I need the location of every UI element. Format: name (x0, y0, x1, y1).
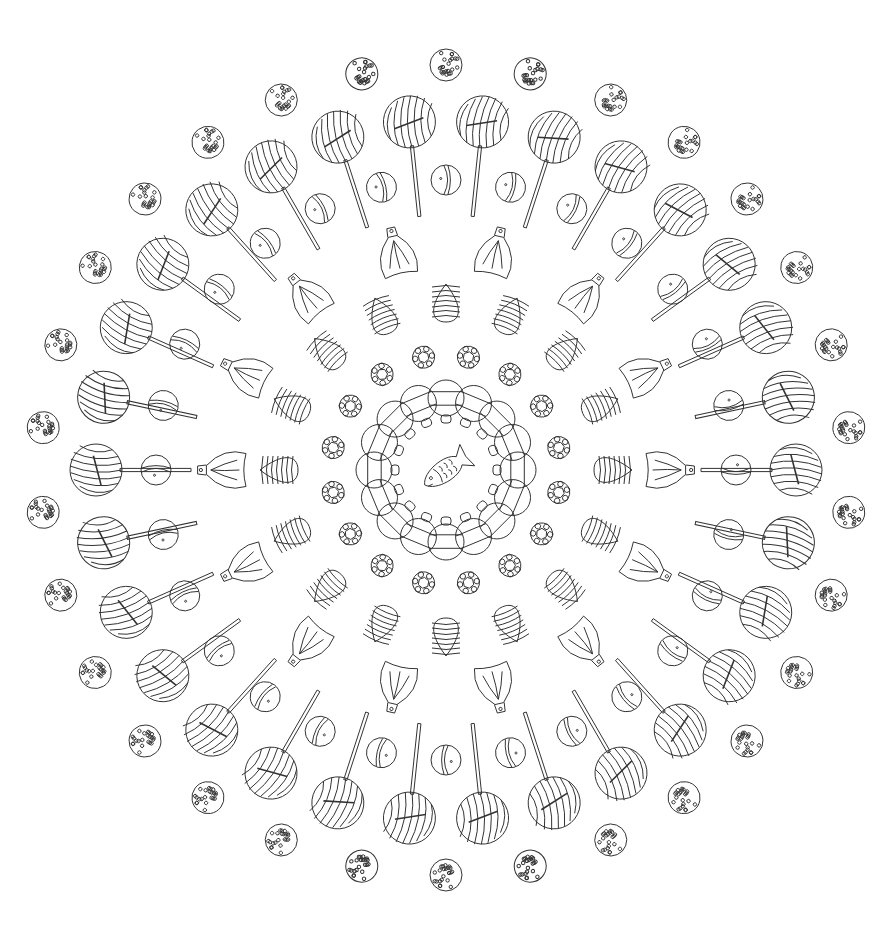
small-ball-item (606, 676, 648, 718)
sprinkle-ball-item (41, 575, 81, 615)
small-ball-item (493, 735, 529, 771)
striped-egg-item (541, 329, 588, 376)
sprinkle-ball-item (122, 718, 167, 763)
lollipop-item (668, 550, 800, 647)
striped-egg-item (362, 293, 402, 339)
sprinkle-ball-item (662, 775, 707, 820)
lollipop-item (637, 228, 765, 341)
lollipop-item (305, 104, 392, 235)
wrapped-candie-item (473, 661, 519, 716)
small-ball-item (364, 735, 400, 771)
small-ball-item (244, 222, 286, 264)
wrapped-candie-item (556, 264, 615, 325)
sprinkle-ball-item (260, 79, 302, 121)
wrapped-candie-item (373, 661, 419, 716)
lollipop-item (381, 93, 445, 219)
lollipop-item (127, 228, 255, 341)
sprinkle-ball-item (343, 847, 381, 885)
striped-egg-item (269, 514, 315, 554)
flower-gem-item (410, 570, 437, 596)
flower-gem-item (526, 391, 557, 422)
striped-bell-candie-item (483, 419, 537, 469)
lollipop-item (500, 104, 587, 235)
small-ball-item (431, 745, 461, 775)
sprinkle-ball-item (831, 495, 866, 530)
small-ball-item (552, 711, 592, 751)
striped-egg-item (260, 456, 298, 484)
striped-bell-candie-item (493, 452, 536, 488)
lollipop-item (305, 704, 392, 835)
sprinkle-ball-item (430, 859, 462, 891)
striped-egg-item (577, 514, 623, 554)
sprinkle-ball-item (811, 575, 851, 615)
sprinkle-ball-item (811, 325, 851, 365)
striped-egg-item (362, 601, 402, 647)
wrapped-candie-item (618, 346, 677, 400)
fish-candy-icon (417, 444, 475, 495)
sprinkle-ball-item (26, 410, 61, 445)
flower-gem-item (335, 391, 366, 422)
striped-bell-candie-item (356, 452, 399, 488)
sprinkle-ball-item (430, 49, 462, 81)
wrapped-candie-item (214, 540, 273, 594)
sprinkle-ball-item (511, 847, 549, 885)
sprinkle-ball-item (73, 246, 117, 290)
striped-egg-item (432, 284, 460, 322)
candy-mandala (0, 0, 892, 941)
sprinkle-ball-item (590, 819, 632, 861)
wrapped-candie-item (198, 452, 246, 488)
lollipop-item (70, 444, 191, 496)
lollipop-item (447, 93, 511, 219)
wrapped-candie-item (646, 452, 694, 488)
sprinkle-ball-item (511, 55, 549, 93)
sprinkle-ball-item (122, 176, 167, 221)
sprinkle-ball-item (724, 176, 769, 221)
lollipop-item (235, 678, 341, 809)
sprinkle-ball-item (775, 651, 819, 695)
lollipop-item (73, 366, 202, 442)
flower-gem-item (320, 434, 346, 461)
small-ball-item (141, 455, 171, 485)
small-ball-item (198, 630, 240, 672)
striped-bell-candie-item (447, 507, 497, 561)
striped-egg-item (269, 386, 315, 426)
wrapped-candie-item (277, 264, 336, 325)
striped-bell-candie-item (483, 471, 537, 521)
striped-egg-item (577, 386, 623, 426)
striped-egg-item (541, 565, 588, 612)
small-ball-item (300, 711, 340, 751)
small-ball-item (364, 169, 400, 205)
wrapped-candie-item (473, 224, 519, 279)
striped-egg-item (432, 618, 460, 656)
wrapped-candie-item (618, 540, 677, 594)
lollipop-item (551, 131, 657, 262)
striped-bell-candie-item (447, 380, 497, 434)
striped-egg-item (305, 329, 352, 376)
striped-egg-item (490, 293, 530, 339)
small-ball-item (244, 676, 286, 718)
small-ball-item (198, 268, 240, 310)
lollipop-item (92, 293, 224, 390)
lollipop-item (73, 498, 202, 574)
sprinkle-ball-item (775, 246, 819, 290)
striped-bell-candie-item (356, 419, 410, 469)
wrapped-candie-item (556, 615, 615, 676)
lollipop-item (500, 704, 587, 835)
sprinkle-ball-item (260, 819, 302, 861)
lollipop-item (447, 721, 511, 847)
lollipop-item (701, 444, 822, 496)
small-ball-item (552, 189, 592, 229)
sprinkle-ball-item (831, 410, 866, 445)
wrapped-candie-item (373, 224, 419, 279)
lollipop-item (551, 678, 657, 809)
striped-bell-candie-item (356, 471, 410, 521)
sprinkle-ball-item (590, 79, 632, 121)
lollipop-item (690, 366, 819, 442)
flower-gem-item (335, 518, 366, 549)
flower-gem-item (367, 550, 398, 581)
lollipop-item (381, 721, 445, 847)
flower-gem-item (455, 570, 482, 596)
striped-bell-candie-item (428, 380, 464, 423)
sprinkle-ball-item (26, 495, 61, 530)
flower-gem-item (494, 359, 525, 390)
